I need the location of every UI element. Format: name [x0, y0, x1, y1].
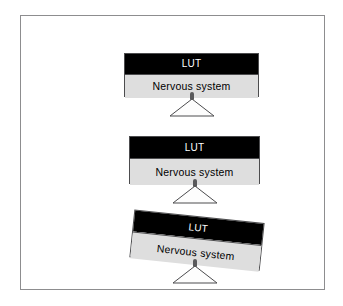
beam-1: LUT Nervous system [124, 53, 259, 97]
beam-1-top-bar: LUT [125, 54, 258, 74]
triangle-support-icon [172, 265, 218, 284]
beam-3-lut-label: LUT [188, 222, 208, 234]
fulcrum-1 [169, 92, 215, 117]
beam-1-nervous-system-label: Nervous system [152, 81, 230, 92]
figure-frame: LUT Nervous system LUT Nervous [20, 15, 325, 290]
beam-2-top-bar: LUT [130, 137, 259, 158]
fulcrum-3 [172, 259, 218, 284]
triangle-support-icon [172, 185, 218, 204]
fulcrum-2 [172, 179, 218, 204]
beam-2-lut-label: LUT [185, 143, 205, 153]
beam-2: LUT Nervous system [129, 136, 260, 184]
figure-root: LUT Nervous system LUT Nervous [0, 0, 343, 306]
beam-1-lut-label: LUT [182, 59, 202, 69]
beam-2-nervous-system-label: Nervous system [155, 167, 233, 178]
triangle-support-icon [169, 98, 215, 117]
